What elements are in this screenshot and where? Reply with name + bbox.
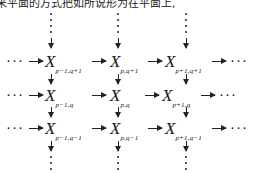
right-arrow-icon — [145, 95, 159, 96]
right-ellipsis: ··· — [219, 87, 237, 104]
right-arrow-icon — [29, 128, 43, 129]
down-arrow-icon — [51, 74, 52, 84]
top-dots-col-1 — [50, 13, 52, 37]
right-arrow-icon — [29, 61, 43, 62]
left-ellipsis: ··· — [6, 87, 24, 104]
down-arrow-icon — [118, 38, 119, 48]
right-arrow-icon — [92, 61, 106, 62]
down-arrow-icon — [118, 107, 119, 117]
right-ellipsis: ··· — [230, 120, 248, 137]
left-ellipsis: ··· — [6, 53, 24, 70]
down-arrow-icon — [118, 141, 119, 151]
node-p-q+1: Xp,q+1 — [110, 52, 138, 73]
down-arrow-icon — [118, 74, 119, 84]
down-arrow-icon — [186, 107, 187, 117]
right-arrow-icon — [212, 61, 226, 62]
right-arrow-icon — [212, 128, 226, 129]
diagram-row-3: ··· Xp−1,q−1 Xp,q−1 Xp+1,q−1 ··· — [0, 119, 258, 139]
node-p-1-q: Xp−1,q — [45, 86, 73, 107]
node-p+1-q-1: Xp+1,q−1 — [165, 119, 202, 140]
down-arrow-icon — [186, 141, 187, 151]
left-ellipsis: ··· — [6, 120, 24, 137]
down-arrow-icon — [186, 74, 187, 84]
right-arrow-icon — [29, 95, 43, 96]
right-ellipsis: ··· — [230, 53, 248, 70]
right-arrow-icon — [148, 128, 162, 129]
bottom-dots-col-2 — [117, 156, 119, 174]
right-arrow-icon — [92, 128, 106, 129]
node-p-q-1: Xp,q−1 — [110, 119, 138, 140]
down-arrow-icon — [51, 107, 52, 117]
down-arrow-icon — [186, 38, 187, 48]
bottom-dots-col-3 — [185, 156, 187, 174]
top-dots-col-3 — [185, 13, 187, 37]
right-arrow-icon — [92, 95, 106, 96]
diagram-row-2: ··· Xp−1,q Xp,q Xp+1,q ··· — [0, 86, 258, 106]
node-p+1-q+1: Xp+1,q+1 — [165, 52, 202, 73]
node-p+1-q: Xp+1,q — [162, 86, 190, 107]
right-arrow-icon — [201, 95, 215, 96]
node-p-1-q+1: Xp−1,q+1 — [45, 52, 82, 73]
right-arrow-icon — [148, 61, 162, 62]
diagram-row-1: ··· Xp−1,q+1 Xp,q+1 Xp+1,q+1 ··· — [0, 52, 258, 72]
down-arrow-icon — [51, 38, 52, 48]
node-p-1-q-1: Xp−1,q−1 — [45, 119, 82, 140]
down-arrow-icon — [51, 141, 52, 151]
bottom-dots-col-1 — [50, 156, 52, 174]
caption-text: 来平面的方式把如所说形为在平面上, — [0, 0, 176, 10]
node-p-q: Xp,q — [110, 86, 130, 107]
top-dots-col-2 — [117, 13, 119, 37]
